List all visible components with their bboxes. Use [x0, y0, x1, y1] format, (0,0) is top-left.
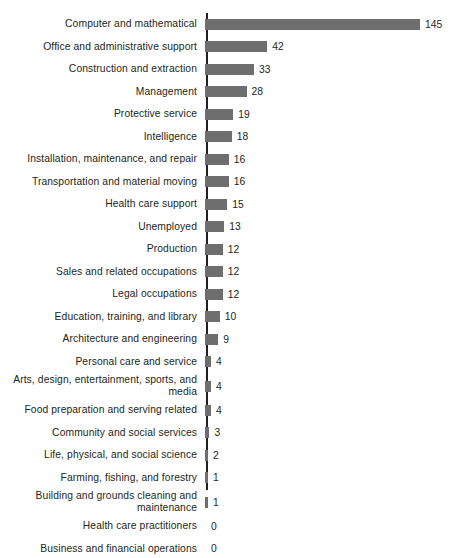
bar-value-label: 15 — [232, 199, 243, 210]
bar-value-label: 3 — [214, 427, 220, 438]
bar-track: 2 — [202, 444, 463, 467]
bar-row: Life, physical, and social science2 — [0, 444, 463, 467]
bar-track: 18 — [202, 126, 463, 149]
bar — [205, 427, 209, 438]
bar-track: 145 — [202, 13, 463, 36]
category-label: Education, training, and library — [0, 311, 202, 323]
bar — [205, 334, 218, 345]
bar — [205, 381, 211, 392]
bar-value-label: 1 — [213, 472, 219, 483]
bar-value-label: 42 — [272, 41, 283, 52]
bar — [205, 199, 227, 210]
bar — [205, 289, 223, 300]
category-label: Community and social services — [0, 427, 202, 439]
category-label: Sales and related occupations — [0, 266, 202, 278]
bar-track: 12 — [202, 283, 463, 306]
category-label: Unemployed — [0, 221, 202, 233]
bar-row: Business and financial operations0 — [0, 538, 463, 558]
category-label: Health care support — [0, 198, 202, 210]
bar — [205, 176, 229, 187]
bar-value-label: 18 — [237, 131, 248, 142]
category-label: Installation, maintenance, and repair — [0, 153, 202, 165]
bar-row: Office and administrative support42 — [0, 36, 463, 59]
bar-track: 15 — [202, 193, 463, 216]
bar-row: Sales and related occupations12 — [0, 261, 463, 284]
category-label: Intelligence — [0, 131, 202, 143]
bar-value-label: 1 — [213, 497, 219, 508]
bar-value-label: 33 — [259, 64, 270, 75]
bar-row: Arts, design, entertainment, sports, and… — [0, 373, 463, 399]
bar-track: 4 — [202, 351, 463, 374]
bar — [205, 266, 223, 277]
bar-value-label: 16 — [234, 176, 245, 187]
category-label: Management — [0, 86, 202, 98]
bar-track: 12 — [202, 261, 463, 284]
bar-row: Unemployed13 — [0, 216, 463, 239]
bar — [205, 244, 223, 255]
bar-track: 1 — [202, 467, 463, 490]
bar-value-label: 0 — [211, 521, 217, 532]
bar — [205, 472, 208, 483]
category-label: Food preparation and serving related — [0, 404, 202, 416]
bar-value-label: 9 — [223, 334, 229, 345]
category-label: Architecture and engineering — [0, 333, 202, 345]
bar-row: Health care support15 — [0, 193, 463, 216]
bar-track: 3 — [202, 422, 463, 445]
bar-row: Building and grounds cleaning and mainte… — [0, 489, 463, 515]
bar-value-label: 12 — [228, 266, 239, 277]
bar-track: 13 — [202, 216, 463, 239]
bar — [205, 19, 420, 30]
bar-track: 1 — [202, 489, 463, 515]
category-label: Legal occupations — [0, 288, 202, 300]
bar-row: Farming, fishing, and forestry1 — [0, 467, 463, 490]
category-label: Farming, fishing, and forestry — [0, 472, 202, 484]
bar — [205, 356, 211, 367]
category-label: Protective service — [0, 108, 202, 120]
bar-track: 19 — [202, 103, 463, 126]
category-label: Construction and extraction — [0, 63, 202, 75]
bar-value-label: 0 — [211, 543, 217, 554]
bar-value-label: 4 — [216, 405, 222, 416]
bar-track: 16 — [202, 171, 463, 194]
bar-value-label: 19 — [238, 109, 249, 120]
bar — [205, 131, 232, 142]
bar — [205, 86, 247, 97]
bar-track: 4 — [202, 399, 463, 422]
bar-row: Management28 — [0, 81, 463, 104]
bar-track: 12 — [202, 238, 463, 261]
category-label: Transportation and material moving — [0, 176, 202, 188]
category-label: Life, physical, and social science — [0, 449, 202, 461]
bar — [205, 154, 229, 165]
bar — [205, 450, 208, 461]
category-label: Building and grounds cleaning and mainte… — [0, 490, 202, 513]
bar-row: Personal care and service4 — [0, 351, 463, 374]
bar-row: Education, training, and library10 — [0, 306, 463, 329]
bar-row: Intelligence18 — [0, 126, 463, 149]
bar — [205, 64, 254, 75]
bar-track: 9 — [202, 328, 463, 351]
bar — [205, 497, 208, 508]
bar-track: 42 — [202, 36, 463, 59]
bar-value-label: 16 — [234, 154, 245, 165]
bar-track: 0 — [202, 515, 463, 538]
bar-row: Production12 — [0, 238, 463, 261]
bar-row: Computer and mathematical145 — [0, 13, 463, 36]
bar — [205, 109, 233, 120]
category-label: Personal care and service — [0, 356, 202, 368]
bar-value-label: 28 — [252, 86, 263, 97]
bar-row: Architecture and engineering9 — [0, 328, 463, 351]
bar-track: 28 — [202, 81, 463, 104]
category-label: Arts, design, entertainment, sports, and… — [0, 374, 202, 397]
category-label: Business and financial operations — [0, 543, 202, 555]
bar-track: 10 — [202, 306, 463, 329]
bar-value-label: 13 — [229, 221, 240, 232]
bar-value-label: 12 — [228, 244, 239, 255]
bar-row: Installation, maintenance, and repair16 — [0, 148, 463, 171]
category-label: Office and administrative support — [0, 41, 202, 53]
bar-track: 0 — [202, 538, 463, 558]
bar-row: Community and social services3 — [0, 422, 463, 445]
bar-value-label: 145 — [425, 19, 442, 30]
bar-track: 33 — [202, 58, 463, 81]
bar-row: Health care practitioners0 — [0, 515, 463, 538]
